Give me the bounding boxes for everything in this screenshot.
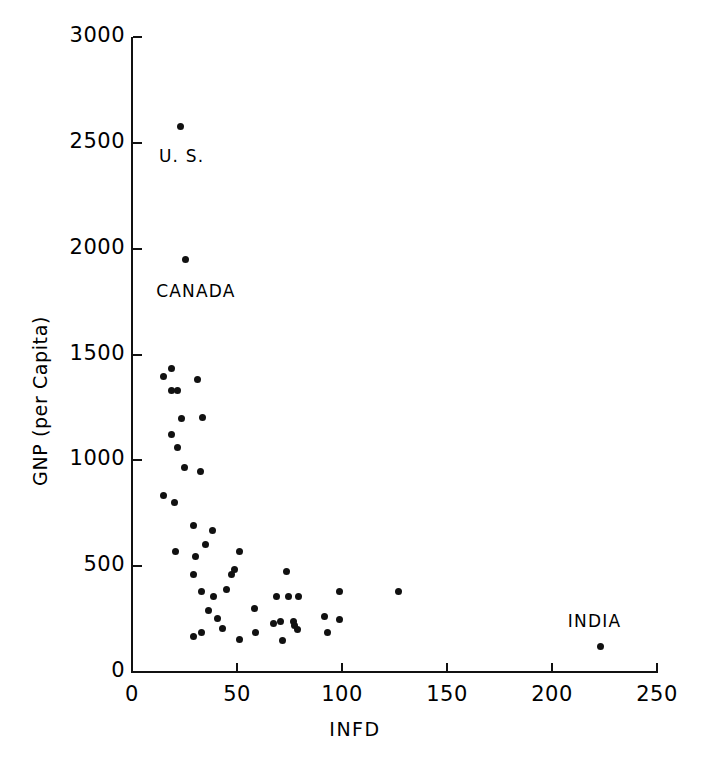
data-point [597,643,604,650]
data-point [171,499,178,506]
y-axis-tick-label: 1000 [5,446,125,470]
data-point [174,444,181,451]
data-point [324,629,331,636]
y-axis-tick [133,354,142,356]
data-point [209,527,216,534]
data-point [283,568,290,575]
y-axis-tick [133,36,142,38]
y-axis-tick-label: 1500 [5,341,125,365]
data-point [190,571,197,578]
data-point [279,637,286,644]
point-label: INDIA [568,611,621,631]
data-point [199,414,206,421]
data-point [182,256,189,263]
x-axis-tick [236,663,238,672]
y-axis-title: GNP (per Capita) [29,291,51,511]
data-point [168,365,175,372]
data-point [177,123,184,130]
data-point [198,588,205,595]
data-point [228,571,235,578]
y-axis-tick-label: 500 [5,552,125,576]
data-point [181,464,188,471]
x-axis-tick-label: 50 [197,682,277,706]
x-axis-tick [446,663,448,672]
y-axis-tick [133,142,142,144]
data-point [160,492,167,499]
data-point [194,376,201,383]
data-point [174,387,181,394]
y-axis-tick [133,565,142,567]
x-axis-tick-label: 150 [407,682,487,706]
data-point [190,633,197,640]
x-axis-title: INFD [295,718,415,740]
x-axis-tick-label: 250 [617,682,697,706]
data-point [252,629,259,636]
y-axis-tick-label: 2000 [5,235,125,259]
data-point [336,588,343,595]
data-point [205,607,212,614]
data-point [321,613,328,620]
data-point [277,618,284,625]
data-point [214,615,221,622]
x-axis-tick-label: 200 [512,682,592,706]
data-point [336,616,343,623]
y-axis-tick-label: 3000 [5,23,125,47]
data-point [294,626,301,633]
x-axis-tick [656,663,658,672]
point-label: U. S. [159,146,204,166]
y-axis-tick [133,248,142,250]
data-point [210,593,217,600]
data-point [219,625,226,632]
x-axis-tick-label: 100 [302,682,382,706]
x-axis-line [131,671,658,673]
y-axis-tick-label: 0 [5,658,125,682]
data-point [192,553,199,560]
data-point [198,629,205,636]
data-point [168,387,175,394]
scatter-chart: 050010001500200025003000 050100150200250… [0,0,707,757]
data-point [295,593,302,600]
y-axis-tick-label: 2500 [5,129,125,153]
data-point [236,548,243,555]
data-point [168,431,175,438]
data-point [285,593,292,600]
data-point [273,593,280,600]
data-point [197,468,204,475]
y-axis-tick [133,459,142,461]
data-point [190,522,197,529]
data-point [223,586,230,593]
x-axis-tick [551,663,553,672]
data-point [251,605,258,612]
data-point [172,548,179,555]
data-point [395,588,402,595]
x-axis-tick-label: 0 [92,682,172,706]
x-axis-tick [341,663,343,672]
data-point [178,415,185,422]
data-point [236,636,243,643]
data-point [160,373,167,380]
data-point [202,541,209,548]
point-label: CANADA [156,281,235,301]
